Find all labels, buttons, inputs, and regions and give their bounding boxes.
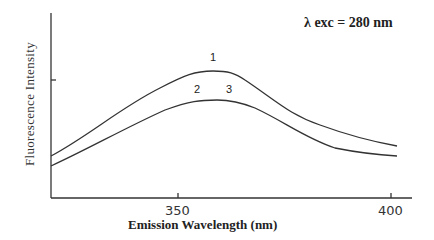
curve-label-3: 3 — [226, 83, 232, 95]
x-axis-label: Emission Wavelength (nm) — [128, 217, 277, 233]
excitation-annotation: λ exc = 280 nm — [304, 15, 393, 31]
y-axis-label: Fluorescence Intensity — [22, 24, 38, 184]
chart-canvas — [0, 0, 434, 240]
curve-label-2: 2 — [194, 83, 200, 95]
x-tick-label-350: 350 — [165, 203, 190, 218]
curve-label-1: 1 — [210, 51, 216, 63]
x-tick-label-400: 400 — [378, 203, 403, 218]
curve-1 — [51, 71, 397, 156]
